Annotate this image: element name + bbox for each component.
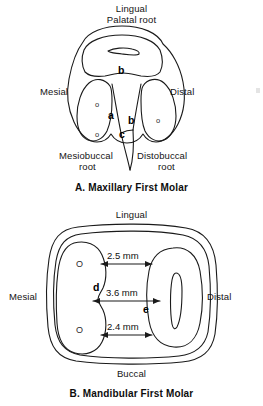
bottom-arrow-right xyxy=(145,332,152,338)
label-mesial: Mesial xyxy=(40,86,68,97)
label-mesiobuccal-root-line1: Mesiobuccal xyxy=(59,150,113,161)
label-distobuccal-root-line1: Distobuccal xyxy=(137,150,187,161)
maxillary-molar-drawing xyxy=(0,0,263,203)
canal-marker-distobuccal-1: o xyxy=(156,116,160,125)
marker-d: d xyxy=(93,281,99,293)
canal-marker-mesiobuccal-1: o xyxy=(95,100,99,109)
distal-root-canal xyxy=(171,273,183,329)
distal-root-outline xyxy=(147,248,203,347)
figure-maxillary-first-molar: Lingual Palatal root Mesial Distal Mesio… xyxy=(0,0,263,203)
crown-outline xyxy=(68,26,185,143)
label-lingual-top: Lingual xyxy=(0,3,263,14)
measurement-top: 2.5 mm xyxy=(107,250,139,261)
canal-marker-mesial-2: O xyxy=(76,325,83,335)
caption-figure-a: A. Maxillary First Molar xyxy=(0,182,263,193)
label-mesial-b: Mesial xyxy=(9,291,37,302)
label-mesiobuccal-root-line2: root xyxy=(79,161,96,172)
apical-projection-right xyxy=(130,130,133,170)
label-palatal-root: Palatal root xyxy=(0,14,263,25)
marker-a: a xyxy=(108,109,114,121)
label-buccal: Buccal xyxy=(0,368,263,379)
figure-mandibular-first-molar: Lingual Mesial Distal Buccal 2.5 mm 3.6 … xyxy=(0,203,263,406)
label-distal: Distal xyxy=(170,86,194,97)
scan-artifact xyxy=(256,88,260,93)
middle-arrow-right xyxy=(153,298,160,304)
marker-c: c xyxy=(119,128,125,140)
middle-arrow-left xyxy=(93,298,100,304)
top-arrow-right xyxy=(145,261,152,267)
marker-b-distal: b xyxy=(128,114,134,126)
marker-e: e xyxy=(143,303,149,315)
label-distal-b: Distal xyxy=(207,291,231,302)
canal-marker-mesial-1: O xyxy=(76,259,83,269)
label-lingual: Lingual xyxy=(0,209,263,220)
marker-b-palatal: b xyxy=(118,64,124,76)
canal-marker-mesiobuccal-2: o xyxy=(95,130,99,139)
caption-figure-b: B. Mandibular First Molar xyxy=(0,388,263,399)
measurement-bottom: 2.4 mm xyxy=(107,321,139,332)
palatal-root-canal xyxy=(108,48,139,55)
label-distobuccal-root-line2: root xyxy=(158,161,175,172)
measurement-middle: 3.6 mm xyxy=(106,287,138,298)
